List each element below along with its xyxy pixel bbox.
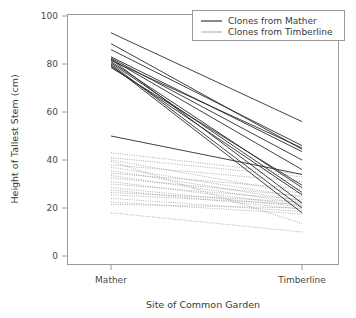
timberline-clone-line [111,160,302,194]
mather-clone-line [111,59,302,169]
plot-frame [68,15,339,265]
timberline-clone-line [111,176,302,204]
chart-canvas: 020406080100 MatherTimberline Height of … [0,0,356,318]
y-axis-ticks: 020406080100 [41,11,68,261]
mather-clone-line [111,136,302,174]
legend-label-timberline: Clones from Timberline [228,27,333,37]
y-tick-label: 60 [47,107,59,117]
y-tick-label: 0 [52,251,58,261]
timberline-clone-line [111,178,302,196]
chart-legend: Clones from Mather Clones from Timberlin… [193,11,345,41]
timberline-clone-line [111,202,302,214]
legend-label-mather: Clones from Mather [228,16,317,26]
y-tick-label: 100 [41,11,58,21]
timberline-clone-line [111,195,302,205]
timberline-clone-line [111,190,302,209]
mather-clone-line [111,44,302,150]
x-axis-title: Site of Common Garden [146,299,260,310]
mather-clone-line [111,63,302,193]
x-tick-label: Mather [95,275,127,285]
mather-clone-line [111,68,302,186]
y-axis-title: Height of Tallest Stem (cm) [9,74,20,203]
timberline-clone-line [111,167,302,197]
timberline-clone-line [111,198,302,211]
series-timberline [111,153,302,232]
mather-clone-line [111,60,302,148]
mather-clone-line [111,65,302,213]
y-tick-label: 80 [47,59,59,69]
x-axis-ticks: MatherTimberline [95,265,326,286]
timberline-clone-line [111,182,302,206]
timberline-clone-line [111,153,302,175]
y-tick-label: 40 [47,155,59,165]
x-tick-label: Timberline [277,275,326,285]
y-tick-label: 20 [47,203,59,213]
mather-clone-line [111,33,302,122]
timberline-clone-line [111,204,302,208]
timberline-clone-line [111,213,302,232]
reaction-norm-chart: 020406080100 MatherTimberline Height of … [0,0,356,318]
timberline-clone-line [111,192,302,202]
